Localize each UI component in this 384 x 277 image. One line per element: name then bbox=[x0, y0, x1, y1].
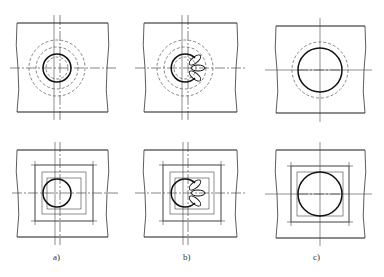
panel-label-a: a) bbox=[53, 252, 60, 262]
plate-outline bbox=[144, 23, 237, 112]
plate-outline bbox=[17, 150, 108, 237]
panel-b-bottom bbox=[135, 142, 245, 245]
plate-break-left bbox=[16, 23, 19, 112]
guide-square-inner bbox=[175, 178, 209, 209]
plate-break-left bbox=[143, 150, 146, 237]
plate-break-left bbox=[275, 26, 278, 113]
plate-break-left bbox=[143, 23, 146, 112]
plate-outline bbox=[17, 23, 108, 112]
panel-a-top bbox=[10, 15, 118, 120]
plate-outline bbox=[144, 150, 237, 237]
panel-a-bottom bbox=[12, 142, 118, 245]
panel-c-top bbox=[265, 18, 372, 122]
panel-label-b: b) bbox=[183, 252, 191, 262]
plate-break-right bbox=[106, 150, 109, 237]
panel-label-c: c) bbox=[313, 252, 320, 262]
plate-break-left bbox=[16, 150, 19, 237]
plate-outline bbox=[276, 26, 365, 113]
plate-break-right bbox=[106, 23, 109, 112]
drilling-diagram bbox=[0, 0, 384, 277]
plate-break-right bbox=[235, 150, 238, 237]
panel-c-bottom bbox=[265, 142, 372, 246]
plate-break-right bbox=[363, 26, 366, 113]
plate-break-right bbox=[235, 23, 238, 112]
panel-b-top bbox=[135, 15, 245, 120]
